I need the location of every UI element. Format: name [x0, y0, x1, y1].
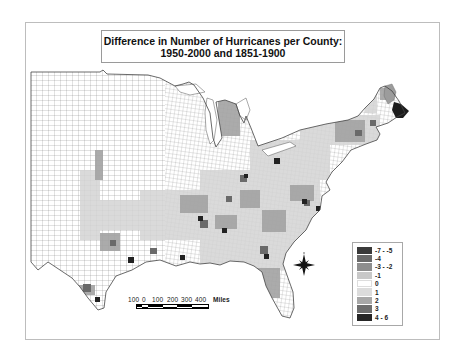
scale-tick: 400	[195, 296, 213, 303]
legend-item: -4	[357, 254, 402, 262]
title-line-2: 1950-2000 and 1851-1900	[102, 47, 344, 59]
legend-item: 2	[357, 296, 402, 304]
legend-swatch	[357, 272, 372, 279]
legend-label: -4	[375, 255, 381, 262]
legend-swatch	[357, 263, 372, 270]
map-title: Difference in Number of Hurricanes per C…	[101, 30, 345, 63]
legend-label: 4 - 6	[375, 314, 388, 321]
scale-labels: 1000100200300400Miles	[128, 296, 230, 303]
legend: -7 - -5 -4 -3 - -2 -1 0 1 2 3 4 - 6	[352, 242, 403, 326]
legend-label: -3 - -2	[375, 263, 392, 270]
scale-tick: 0	[142, 296, 152, 303]
legend-item: -3 - -2	[357, 263, 402, 271]
scale-tick: 100	[128, 296, 142, 303]
legend-item: -7 - -5	[357, 246, 402, 254]
scale-tick: 300	[181, 296, 195, 303]
scale-tick: 200	[167, 296, 181, 303]
legend-label: 3	[375, 305, 379, 312]
north-arrow-icon	[291, 252, 317, 278]
scale-tick: 100	[152, 296, 167, 303]
legend-swatch	[357, 288, 372, 295]
legend-swatch	[357, 255, 372, 262]
legend-label: 1	[375, 289, 379, 296]
legend-item: 3	[357, 305, 402, 313]
legend-label: -7 - -5	[375, 247, 392, 254]
legend-label: -1	[375, 272, 381, 279]
legend-item: 1	[357, 288, 402, 296]
legend-item: 0	[357, 280, 402, 288]
legend-swatch	[357, 314, 372, 321]
scale-bar-graphic	[136, 304, 209, 309]
legend-swatch	[357, 305, 372, 312]
legend-item: 4 - 6	[357, 313, 402, 321]
scale-unit: Miles	[213, 296, 230, 303]
legend-swatch	[357, 280, 372, 287]
legend-item: -1	[357, 271, 402, 279]
legend-swatch	[357, 297, 372, 304]
legend-swatch	[357, 247, 372, 254]
legend-label: 0	[375, 280, 379, 287]
legend-label: 2	[375, 297, 379, 304]
title-line-1: Difference in Number of Hurricanes per C…	[102, 35, 344, 47]
scale-bar: 1000100200300400Miles	[128, 296, 230, 309]
